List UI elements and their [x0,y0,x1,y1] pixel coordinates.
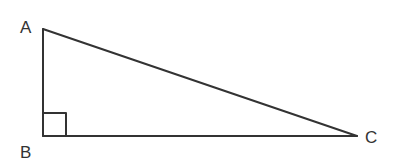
vertex-label-b: B [20,143,31,162]
vertex-label-a: A [20,18,32,37]
vertex-label-c: C [365,128,377,147]
edge-ac-hypotenuse [43,29,357,136]
right-triangle-diagram: A B C [0,0,398,163]
right-angle-marker [43,113,66,136]
